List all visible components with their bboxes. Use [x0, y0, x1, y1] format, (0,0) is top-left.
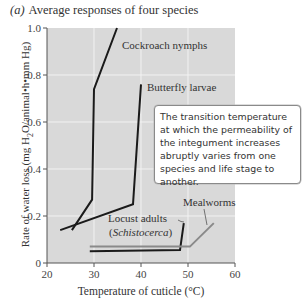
label-cockroach-nymphs: Cockroach nymphs — [122, 39, 207, 51]
x-tick-label: 50 — [183, 268, 195, 280]
label-schistocerca: (Schistocerca) — [109, 226, 172, 238]
label-butterfly-larvae: Butterfly larvae — [147, 81, 216, 93]
label-locust-adults: Locust adults — [108, 212, 167, 224]
x-tick-label: 40 — [136, 268, 148, 280]
annotation-callout: The transition temperature at which the … — [154, 105, 301, 184]
y-tick-label: 1.0 — [27, 22, 41, 34]
x-axis-label: Temperature of cuticle (°C) — [47, 285, 235, 297]
y-axis-label: Rate of water loss (mg H2O/animal•h•mm H… — [19, 40, 34, 250]
x-tick-label: 60 — [230, 268, 242, 280]
label-mealworms: Mealworms — [183, 196, 236, 208]
x-tick-label: 20 — [42, 268, 54, 280]
x-tick-label: 30 — [89, 268, 101, 280]
